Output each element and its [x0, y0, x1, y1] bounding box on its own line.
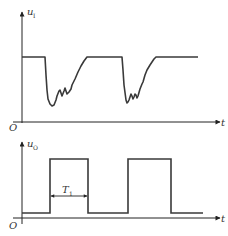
bottom-x-label: t [221, 213, 226, 224]
input-waveform [22, 57, 198, 106]
bottom-y-label-sub: O [33, 144, 38, 151]
top-origin-label: O [9, 122, 17, 133]
pulse-width-label-sub: 1 [69, 190, 73, 197]
output-waveform [22, 159, 203, 213]
waveform-diagram: u I O t T 1 u O O t [0, 0, 228, 236]
top-x-label: t [221, 117, 226, 128]
bottom-plot: T 1 u O O t [9, 138, 226, 231]
bottom-origin-label: O [9, 220, 17, 231]
top-y-label-sub: I [33, 12, 36, 19]
top-plot: u I O t [9, 6, 226, 133]
